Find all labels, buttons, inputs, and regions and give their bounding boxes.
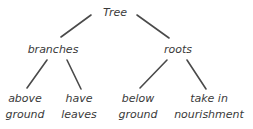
node-below-ground: below ground bbox=[118, 91, 157, 123]
node-take-in-nourishment: take in nourishment bbox=[174, 91, 244, 123]
node-have-leaves: have leaves bbox=[61, 91, 97, 123]
edge-line bbox=[27, 60, 47, 88]
tree-diagram: Tree branches roots above ground have le… bbox=[0, 0, 253, 129]
node-tree: Tree bbox=[103, 5, 127, 21]
node-label-line2: leaves bbox=[61, 107, 97, 123]
edge-line bbox=[61, 15, 91, 37]
node-label-line2: ground bbox=[5, 107, 44, 123]
node-roots: roots bbox=[164, 42, 192, 58]
node-label-line1: take in bbox=[174, 91, 244, 107]
node-label-line2: nourishment bbox=[174, 107, 244, 123]
edge-line bbox=[137, 15, 169, 38]
node-label: roots bbox=[164, 42, 192, 58]
edge-line bbox=[140, 60, 167, 88]
node-branches: branches bbox=[28, 42, 79, 58]
node-label: branches bbox=[28, 42, 79, 58]
node-label-line1: have bbox=[61, 91, 97, 107]
edge-line bbox=[67, 60, 81, 89]
edge-line bbox=[187, 60, 206, 89]
node-label-line1: above bbox=[5, 91, 44, 107]
node-label: Tree bbox=[103, 5, 127, 21]
node-above-ground: above ground bbox=[5, 91, 44, 123]
node-label-line1: below bbox=[118, 91, 157, 107]
node-label-line2: ground bbox=[118, 107, 157, 123]
